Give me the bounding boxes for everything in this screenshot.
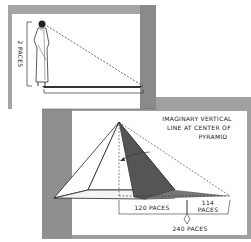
top-panel-canvas <box>12 14 140 109</box>
shadow-length-unit: PACES <box>198 206 219 213</box>
total-length-label: 240 PACES <box>172 225 207 232</box>
top-panel: 2 PACES 3 PACES <box>8 5 156 109</box>
annotation-line-3: PYRAMID <box>199 133 228 140</box>
height-label: 2 PACES <box>17 41 24 68</box>
pyramid-measurement-diagram: 2 PACES 3 PACES IMAGINARY VERTICAL LI <box>0 0 251 242</box>
shadow-length-number: 114 <box>202 199 214 206</box>
half-base-label: 120 PACES <box>134 204 169 211</box>
annotation-line-2: LINE AT CENTER OF <box>167 124 231 131</box>
bottom-panel: IMAGINARY VERTICAL LINE AT CENTER OF PYR… <box>42 97 251 239</box>
annotation-line-1: IMAGINARY VERTICAL <box>162 115 232 122</box>
